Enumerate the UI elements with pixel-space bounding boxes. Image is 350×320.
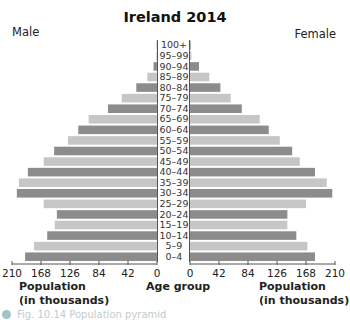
female-bar-5–9 bbox=[190, 242, 307, 251]
female-bar-40–44 bbox=[190, 168, 315, 177]
age-label-5–9: 5–9 bbox=[166, 240, 183, 251]
female-bar-20–24 bbox=[190, 210, 287, 219]
female-bar-10–14 bbox=[190, 231, 296, 240]
female-bar-95–99 bbox=[190, 52, 191, 61]
age-label-35–39: 35–39 bbox=[160, 177, 189, 188]
male-x-tick-label: 126 bbox=[60, 267, 80, 279]
male-bar-85–89 bbox=[147, 73, 157, 82]
age-label-70–74: 70–74 bbox=[160, 103, 189, 114]
male-bar-50–54 bbox=[54, 147, 157, 156]
caption-text: Fig. 10.14 Population pyramid bbox=[17, 309, 166, 320]
caption-bullet-icon bbox=[2, 310, 11, 319]
female-axis-title-line1: Population bbox=[259, 280, 349, 294]
male-bar-5–9 bbox=[34, 242, 157, 251]
age-label-0–4: 0–4 bbox=[166, 251, 183, 262]
female-x-tick-label: 168 bbox=[296, 267, 316, 279]
female-bar-45–49 bbox=[190, 157, 300, 166]
female-bar-65–69 bbox=[190, 115, 260, 124]
male-bar-20–24 bbox=[57, 210, 157, 219]
male-bar-40–44 bbox=[28, 168, 157, 177]
female-bar-0–4 bbox=[190, 252, 315, 261]
age-label-25–29: 25–29 bbox=[160, 198, 189, 209]
age-label-50–54: 50–54 bbox=[160, 145, 189, 156]
age-label-30–34: 30–34 bbox=[160, 187, 189, 198]
female-bar-90–94 bbox=[190, 62, 199, 71]
female-bar-35–39 bbox=[190, 178, 327, 187]
male-bar-75–79 bbox=[122, 94, 157, 103]
male-bar-30–34 bbox=[17, 189, 157, 198]
female-x-tick-label: 42 bbox=[212, 267, 225, 279]
female-x-tick-label: 210 bbox=[325, 267, 345, 279]
male-bar-25–29 bbox=[44, 200, 157, 209]
male-bar-10–14 bbox=[47, 231, 157, 240]
male-bar-80–84 bbox=[136, 83, 157, 92]
female-axis-title: Population (in thousands) bbox=[259, 280, 349, 308]
female-bar-60–64 bbox=[190, 126, 269, 135]
age-label-75–79: 75–79 bbox=[160, 92, 189, 103]
female-axis-title-line2: (in thousands) bbox=[259, 294, 349, 308]
male-x-tick-label: 84 bbox=[92, 267, 106, 279]
male-axis-title-line2: (in thousands) bbox=[19, 294, 109, 308]
female-bar-70–74 bbox=[190, 104, 242, 113]
male-bar-65–69 bbox=[89, 115, 157, 124]
male-bar-60–64 bbox=[78, 126, 157, 135]
age-label-10–14: 10–14 bbox=[160, 230, 189, 241]
age-label-65–69: 65–69 bbox=[160, 113, 189, 124]
male-bar-70–74 bbox=[108, 104, 157, 113]
male-bar-95–99 bbox=[156, 52, 157, 61]
female-x-tick-label: 84 bbox=[241, 267, 255, 279]
male-x-tick-label: 0 bbox=[154, 267, 161, 279]
age-label-45–49: 45–49 bbox=[160, 156, 189, 167]
male-x-tick-label: 168 bbox=[31, 267, 51, 279]
age-label-80–84: 80–84 bbox=[160, 82, 189, 93]
male-bar-35–39 bbox=[19, 178, 157, 187]
age-label-100+: 100+ bbox=[161, 39, 187, 50]
male-bar-0–4 bbox=[25, 252, 157, 261]
female-bar-80–84 bbox=[190, 83, 220, 92]
female-bar-30–34 bbox=[190, 189, 332, 198]
male-axis-title-line1: Population bbox=[19, 280, 109, 294]
age-label-20–24: 20–24 bbox=[160, 209, 189, 220]
age-label-95–99: 95–99 bbox=[160, 50, 189, 61]
female-bar-100+ bbox=[190, 41, 191, 50]
female-bar-55–59 bbox=[190, 136, 280, 145]
male-axis-title: Population (in thousands) bbox=[19, 280, 109, 308]
age-label-15–19: 15–19 bbox=[160, 219, 189, 230]
male-bar-90–94 bbox=[154, 62, 157, 71]
female-bar-50–54 bbox=[190, 147, 292, 156]
female-bar-15–19 bbox=[190, 221, 287, 230]
age-label-55–59: 55–59 bbox=[160, 135, 189, 146]
age-group-axis-title: Age group bbox=[146, 280, 210, 294]
female-bar-25–29 bbox=[190, 200, 306, 209]
male-bar-45–49 bbox=[44, 157, 157, 166]
age-label-40–44: 40–44 bbox=[160, 166, 189, 177]
figure-caption: Fig. 10.14 Population pyramid bbox=[2, 309, 166, 320]
age-label-85–89: 85–89 bbox=[160, 71, 189, 82]
age-label-90–94: 90–94 bbox=[160, 61, 189, 72]
female-x-tick-label: 0 bbox=[187, 267, 194, 279]
age-label-60–64: 60–64 bbox=[160, 124, 189, 135]
female-bar-85–89 bbox=[190, 73, 209, 82]
female-bar-75–79 bbox=[190, 94, 231, 103]
male-x-tick-label: 210 bbox=[2, 267, 22, 279]
male-bar-15–19 bbox=[55, 221, 157, 230]
female-x-tick-label: 126 bbox=[267, 267, 287, 279]
male-x-tick-label: 42 bbox=[121, 267, 134, 279]
male-bar-55–59 bbox=[68, 136, 157, 145]
